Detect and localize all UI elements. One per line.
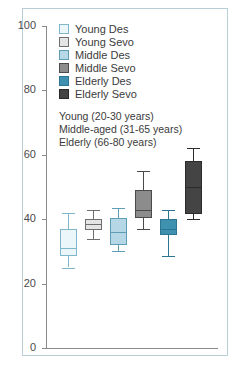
legend-label: Young Sevo bbox=[75, 36, 134, 48]
whisker-upper-stem bbox=[68, 213, 69, 229]
median-line bbox=[85, 224, 102, 225]
whisker-upper-stem bbox=[143, 171, 144, 190]
median-line bbox=[135, 210, 152, 211]
y-axis-tick-label: 40 bbox=[8, 213, 36, 224]
whisker-upper-cap bbox=[62, 213, 75, 214]
whisker-lower-cap bbox=[87, 239, 100, 240]
annotation-line: Middle-aged (31-65 years) bbox=[59, 123, 219, 136]
whisker-lower-cap bbox=[137, 229, 150, 230]
legend-item: Elderly Des bbox=[59, 74, 189, 87]
y-axis-tick bbox=[42, 219, 46, 220]
legend-label: Elderly Sevo bbox=[75, 88, 137, 100]
y-axis-tick bbox=[42, 284, 46, 285]
legend-item: Middle Des bbox=[59, 48, 189, 61]
annotation-line: Elderly (66-80 years) bbox=[59, 136, 219, 149]
whisker-lower-stem bbox=[68, 256, 69, 267]
legend-item: Middle Sevo bbox=[59, 61, 189, 74]
median-line bbox=[60, 248, 77, 249]
legend-swatch bbox=[59, 37, 69, 47]
whisker-upper-cap bbox=[137, 171, 150, 172]
whisker-upper-stem bbox=[118, 208, 119, 218]
legend-label: Middle Des bbox=[75, 49, 130, 61]
legend-item: Young Des bbox=[59, 22, 189, 35]
y-axis-tick-label: 0 bbox=[8, 342, 36, 353]
legend-swatch bbox=[59, 24, 69, 34]
whisker-lower-cap bbox=[112, 251, 125, 252]
whisker-upper-stem bbox=[93, 210, 94, 220]
whisker-lower-stem bbox=[93, 230, 94, 238]
whisker-upper-cap bbox=[162, 210, 175, 211]
legend-item: Young Sevo bbox=[59, 35, 189, 48]
y-axis-tick bbox=[42, 90, 46, 91]
y-axis-tick bbox=[42, 26, 46, 27]
box-iqr bbox=[60, 229, 77, 256]
median-line bbox=[160, 229, 177, 230]
whisker-upper-stem bbox=[193, 148, 194, 161]
whisker-upper-stem bbox=[168, 210, 169, 220]
y-axis-tick-label: 20 bbox=[8, 278, 36, 289]
whisker-lower-cap bbox=[62, 268, 75, 269]
legend-label: Young Des bbox=[75, 23, 128, 35]
box-iqr bbox=[135, 190, 152, 217]
y-axis-tick bbox=[42, 155, 46, 156]
median-line bbox=[110, 232, 127, 233]
legend-swatch bbox=[59, 63, 69, 73]
y-axis-tick-label: 80 bbox=[8, 84, 36, 95]
legend-label: Elderly Des bbox=[75, 75, 131, 87]
whisker-upper-cap bbox=[87, 210, 100, 211]
y-axis-tick bbox=[42, 348, 46, 349]
whisker-lower-cap bbox=[162, 256, 175, 257]
legend: Young DesYoung SevoMiddle DesMiddle Sevo… bbox=[59, 22, 189, 100]
figure: 020406080100 Young DesYoung SevoMiddle D… bbox=[0, 0, 237, 371]
y-axis-tick-label: 100 bbox=[8, 20, 36, 31]
legend-label: Middle Sevo bbox=[75, 62, 136, 74]
y-axis-line bbox=[46, 26, 47, 348]
legend-swatch bbox=[59, 89, 69, 99]
x-axis-line bbox=[46, 348, 218, 349]
whisker-lower-stem bbox=[143, 218, 144, 229]
annotation-block: Young (20-30 years)Middle-aged (31-65 ye… bbox=[59, 110, 219, 149]
legend-item: Elderly Sevo bbox=[59, 87, 189, 100]
median-line bbox=[185, 187, 202, 188]
box-iqr bbox=[160, 219, 177, 235]
legend-swatch bbox=[59, 76, 69, 86]
whisker-upper-cap bbox=[112, 208, 125, 209]
legend-swatch bbox=[59, 50, 69, 60]
annotation-line: Young (20-30 years) bbox=[59, 110, 219, 123]
whisker-lower-stem bbox=[168, 235, 169, 256]
whisker-lower-cap bbox=[187, 219, 200, 220]
y-axis-tick-label: 60 bbox=[8, 149, 36, 160]
